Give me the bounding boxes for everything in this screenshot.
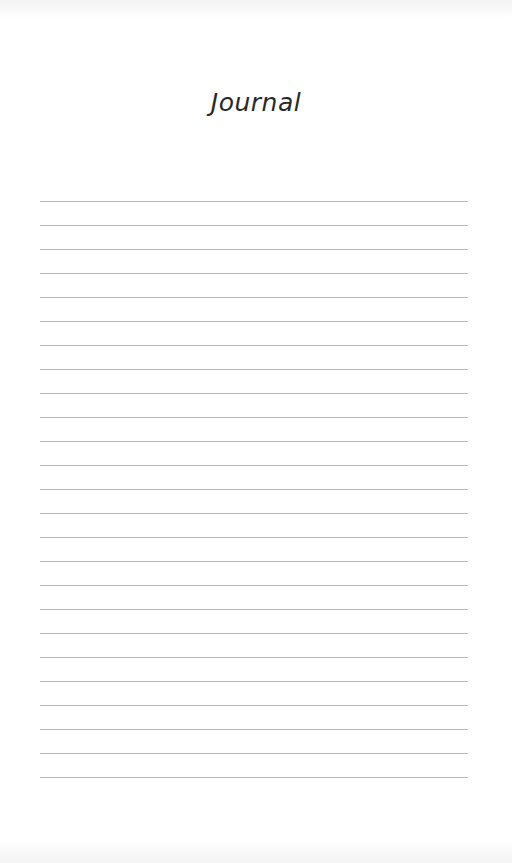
writing-line [40,585,468,586]
writing-line [40,777,468,778]
writing-line [40,465,468,466]
writing-line [40,753,468,754]
writing-line [40,417,468,418]
writing-line [40,513,468,514]
writing-line [40,681,468,682]
writing-line [40,369,468,370]
writing-line [40,321,468,322]
writing-line [40,633,468,634]
writing-line [40,441,468,442]
writing-line [40,201,468,202]
bottom-edge-shadow [0,841,512,863]
writing-line [40,705,468,706]
top-edge-shadow [0,0,512,18]
writing-line [40,225,468,226]
writing-line [40,489,468,490]
writing-line [40,249,468,250]
writing-line [40,393,468,394]
writing-line [40,273,468,274]
writing-line [40,561,468,562]
writing-line [40,537,468,538]
writing-line [40,297,468,298]
writing-line [40,657,468,658]
page-title: Journal [0,88,512,117]
writing-line [40,729,468,730]
writing-line [40,609,468,610]
writing-line [40,345,468,346]
